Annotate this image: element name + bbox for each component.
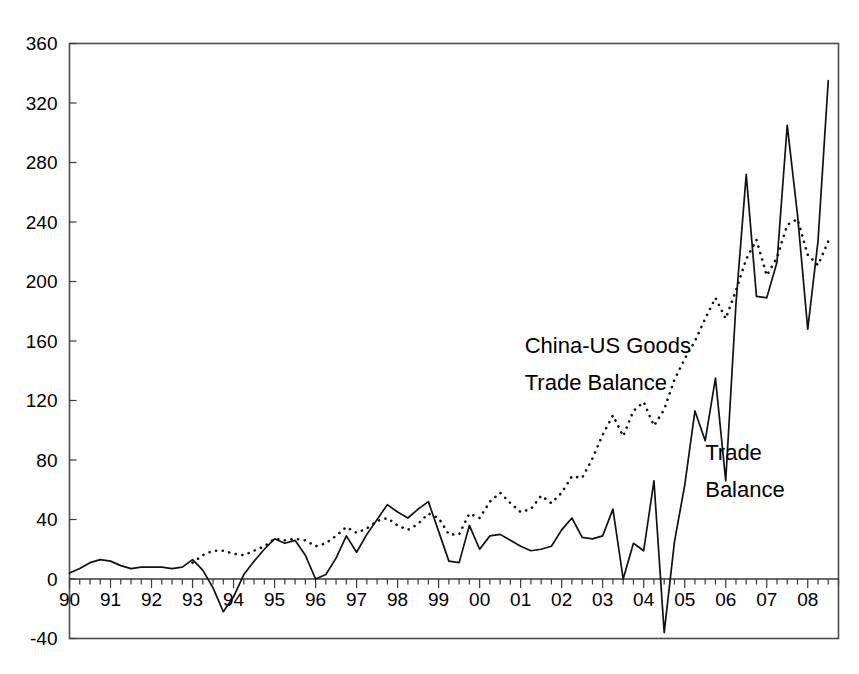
x-tick-label: 02 — [551, 589, 572, 610]
x-tick-label: 92 — [141, 589, 162, 610]
y-tick-label: -40 — [30, 628, 57, 649]
y-tick-label: 240 — [26, 212, 58, 233]
y-tick-label: 200 — [26, 271, 58, 292]
x-tick-label: 97 — [346, 589, 367, 610]
y-tick-label: 360 — [26, 33, 58, 54]
annotation-label: Balance — [705, 477, 785, 502]
chart-canvas: -4004080120160200240280320360 9091929394… — [0, 0, 859, 674]
x-tick-label: 95 — [264, 589, 285, 610]
x-tick-label: 05 — [674, 589, 695, 610]
x-tick-label: 03 — [592, 589, 613, 610]
annotation-label: Trade Balance — [525, 370, 667, 395]
x-tick-label: 08 — [797, 589, 818, 610]
y-tick-label: 40 — [36, 509, 57, 530]
annotation-label: Trade — [705, 440, 762, 465]
x-tick-label: 93 — [182, 589, 203, 610]
annotation-label: China-US Goods — [525, 333, 691, 358]
x-tick-label: 01 — [510, 589, 531, 610]
x-tick-label: 90 — [59, 589, 80, 610]
x-tick-label: 96 — [305, 589, 326, 610]
y-tick-label: 320 — [26, 93, 58, 114]
x-tick-label: 98 — [387, 589, 408, 610]
x-tick-label: 06 — [715, 589, 736, 610]
y-tick-label: 80 — [36, 450, 57, 471]
y-tick-label: 160 — [26, 331, 58, 352]
x-tick-label: 00 — [469, 589, 490, 610]
y-tick-label: 0 — [47, 569, 58, 590]
x-tick-label: 07 — [756, 589, 777, 610]
y-tick-label: 280 — [26, 152, 58, 173]
chart-figure: -4004080120160200240280320360 9091929394… — [0, 0, 859, 674]
x-tick-label: 99 — [428, 589, 449, 610]
chart-background — [0, 0, 859, 674]
y-tick-label: 120 — [26, 390, 58, 411]
x-tick-label: 04 — [633, 589, 655, 610]
x-tick-label: 91 — [100, 589, 121, 610]
